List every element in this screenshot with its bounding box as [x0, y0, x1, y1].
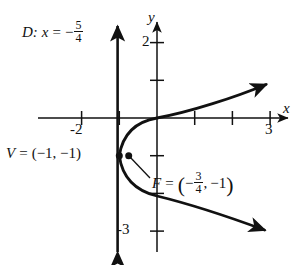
- y-tick-label-2: 2: [142, 34, 150, 49]
- focus-fraction-denominator: 4: [194, 182, 203, 195]
- directrix-label-var: x: [42, 24, 49, 40]
- y-axis: [150, 22, 164, 252]
- focus-point: [125, 152, 132, 159]
- x-tick-label-neg2: -2: [70, 122, 83, 137]
- focus-label-name: F: [152, 175, 161, 191]
- vertex-point: [116, 152, 123, 159]
- directrix-fraction-denominator: 4: [74, 31, 83, 44]
- focus-fraction-numerator: 3: [194, 170, 203, 182]
- y-axis-label: y: [148, 10, 155, 25]
- focus-fraction: 34: [194, 170, 203, 195]
- vertex-label-coords: (−1, −1): [32, 145, 81, 161]
- focus-label-open-paren: (: [178, 173, 185, 197]
- focus-label-close-paren: ): [226, 173, 233, 197]
- focus-label-second-coord: −1: [210, 175, 226, 191]
- vertex-label-equals: =: [19, 145, 27, 161]
- parabola-upper-branch: [119, 85, 266, 156]
- vertex-label-name: V: [6, 145, 15, 161]
- directrix-label-equals: =: [53, 24, 61, 40]
- directrix-label: D:x=−54: [22, 19, 84, 44]
- x-axis-label: x: [283, 101, 290, 116]
- focus-label-comma: ,: [203, 175, 207, 191]
- y-tick-label-neg3: -3: [117, 222, 130, 237]
- focus-leader-line: [130, 157, 151, 179]
- vertex-label: V=(−1, −1): [6, 146, 81, 161]
- focus-label-sign: −: [185, 175, 193, 191]
- focus-label-equals: =: [165, 175, 173, 191]
- directrix-fraction-numerator: 5: [74, 19, 83, 31]
- parabola-curve: [119, 85, 266, 231]
- focus-label: F=(−34,−1): [152, 170, 233, 195]
- directrix-fraction: 54: [74, 19, 83, 44]
- directrix-label-sign: −: [65, 24, 73, 40]
- x-tick-label-3: 3: [265, 122, 273, 137]
- directrix-label-prefix: D:: [22, 24, 38, 40]
